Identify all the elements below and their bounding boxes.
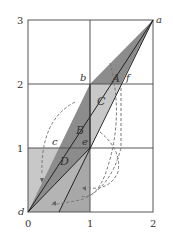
- y-tick-2: 2: [17, 79, 23, 90]
- region-label-c: C: [97, 95, 106, 108]
- region-a-fill: [90, 20, 153, 84]
- x-tick-0: 0: [25, 218, 31, 229]
- region-label-b: B: [75, 124, 84, 137]
- diagram-canvas: 0 1 2 3 2 1 a b f c e d A C B D: [0, 0, 173, 237]
- y-tick-3: 3: [17, 15, 23, 26]
- point-label-a: a: [156, 14, 162, 25]
- point-label-d: d: [18, 206, 24, 217]
- x-tick-1: 1: [87, 218, 93, 229]
- x-tick-2: 2: [150, 218, 156, 229]
- region-label-a: A: [111, 72, 120, 85]
- point-label-f: f: [125, 72, 132, 83]
- point-label-b: b: [80, 72, 86, 83]
- point-label-c: c: [52, 136, 58, 147]
- y-tick-1: 1: [17, 143, 23, 154]
- region-label-d: D: [59, 155, 69, 168]
- point-label-e: e: [82, 136, 88, 147]
